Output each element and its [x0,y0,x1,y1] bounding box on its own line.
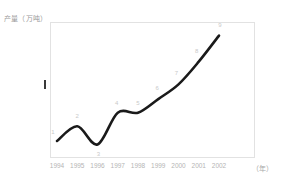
data-point-label: 7 [175,70,178,76]
data-point-label: 6 [156,85,159,91]
data-point-label: 4 [115,100,118,106]
data-point-label: 8 [195,48,198,54]
data-point-label: 9 [218,22,221,28]
data-point-label: 1 [51,129,54,135]
chart-canvas: 产量（万吨） 150130110907050 19941995199619971… [0,0,288,196]
data-curve-layer [0,0,288,196]
data-point-label: 2 [76,113,79,119]
data-point-label: 5 [136,100,139,106]
data-point-label: 3 [97,151,100,157]
